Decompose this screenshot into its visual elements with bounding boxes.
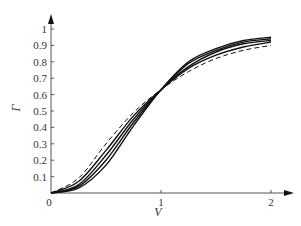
ticks: 0.10.20.30.40.50.60.70.80.91012 bbox=[33, 23, 274, 208]
y-tick-label: 0.6 bbox=[33, 89, 47, 101]
y-tick-label: 0.9 bbox=[33, 39, 47, 51]
series-group bbox=[51, 37, 271, 193]
x-tick-label: 0 bbox=[46, 196, 52, 208]
curve-solid-2 bbox=[51, 41, 271, 194]
y-tick-label: 0.1 bbox=[33, 171, 47, 183]
x-axis-arrow-icon bbox=[284, 190, 294, 196]
y-tick-label: 0.3 bbox=[33, 138, 47, 150]
y-axis-arrow-icon bbox=[48, 14, 54, 24]
y-tick-label: 1 bbox=[42, 23, 48, 35]
y-tick-label: 0.7 bbox=[33, 72, 47, 84]
x-tick-label: 2 bbox=[268, 196, 274, 208]
curve-solid-3 bbox=[51, 39, 271, 193]
y-axis-label: Γ bbox=[9, 103, 23, 112]
y-tick-label: 0.4 bbox=[33, 121, 47, 133]
curve-dashed bbox=[51, 45, 271, 193]
y-tick-label: 0.8 bbox=[33, 56, 47, 68]
curve-solid-4 bbox=[51, 37, 271, 193]
curve-solid-1 bbox=[51, 42, 271, 193]
chart: 0.10.20.30.40.50.60.70.80.91012 V Γ bbox=[0, 0, 301, 226]
y-tick-label: 0.2 bbox=[33, 154, 47, 166]
y-tick-label: 0.5 bbox=[33, 105, 47, 117]
